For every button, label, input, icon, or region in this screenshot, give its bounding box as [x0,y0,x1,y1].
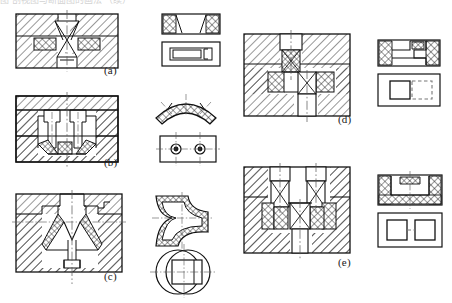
figure-a-drawing [14,10,226,72]
drawing-sheet: 图 剖视图与断面图的画法 （续） [0,0,452,303]
figure-c [12,188,226,298]
section-view-b [16,92,118,168]
figure-a [14,10,226,72]
figure-caption-d: (d) [338,113,351,125]
aux-top-section-e [378,171,442,209]
figure-caption-c: (c) [104,270,117,282]
figure-b-drawing [14,92,226,168]
section-view-d [244,30,350,122]
figure-b [14,92,226,168]
aux-top-section-d [378,40,440,66]
figure-e [240,163,450,259]
figure-caption-b: (b) [104,156,117,168]
section-view-a [16,10,118,72]
section-view-e [244,163,350,259]
aux-plan-e [378,213,442,247]
figure-c-drawing [12,188,226,298]
figure-d-drawing [240,30,450,122]
aux-arc-section-b [156,94,216,124]
cropped-header-caption: 图 剖视图与断面图的画法 （续） [0,0,452,9]
cropped-header-text: 图 剖视图与断面图的画法 （续） [0,0,452,5]
figure-e-drawing [240,163,450,259]
figure-caption-a: (a) [104,64,117,76]
aux-bent-profile-c [152,192,214,250]
aux-top-section-a [162,14,220,34]
aux-circle-plan-c [150,244,216,298]
aux-plan-a [162,42,220,66]
aux-plan-d [378,74,440,106]
figure-caption-e: (e) [338,256,351,268]
figure-d [240,30,450,122]
aux-plan-b [156,132,220,166]
